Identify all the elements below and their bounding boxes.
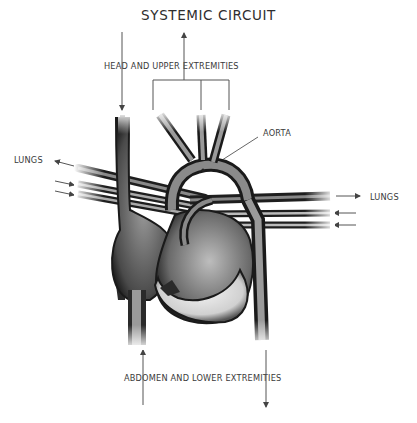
arrow-to-lungs-left	[55, 161, 74, 166]
vena-cava-and-right-atrium	[112, 112, 175, 350]
arrow-from-lungs-left-1	[55, 181, 74, 185]
arrow-from-lungs-left-2	[55, 191, 74, 195]
heart-circulation-diagram	[0, 0, 417, 423]
bracket-head-branches	[153, 80, 229, 110]
heart-ventricles	[155, 210, 253, 323]
